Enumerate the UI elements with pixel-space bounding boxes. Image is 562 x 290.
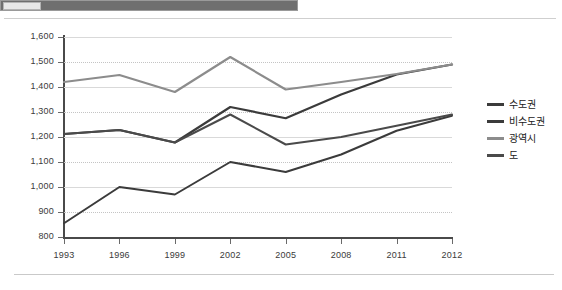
legend-label: 광역시 xyxy=(509,134,536,144)
x-axis-label: 2002 xyxy=(208,250,252,260)
y-axis-label: 1,600 xyxy=(6,31,54,41)
x-axis-label: 2008 xyxy=(319,250,363,260)
y-axis-label: 900 xyxy=(6,206,54,216)
legend-label: 도 xyxy=(509,151,518,161)
x-axis-tick xyxy=(230,239,231,244)
y-axis-label: 1,500 xyxy=(6,56,54,66)
legend-item: 비수도권 xyxy=(487,113,559,130)
x-axis-label: 1996 xyxy=(97,250,141,260)
y-axis-label: 1,000 xyxy=(6,181,54,191)
y-axis-label: 1,300 xyxy=(6,106,54,116)
x-axis-label: 2011 xyxy=(375,250,419,260)
footer-divider xyxy=(14,274,554,275)
x-axis-tick xyxy=(341,239,342,244)
chart-page: 1,6001,5001,4001,3001,2001,1001,00090080… xyxy=(0,0,562,290)
header-chip xyxy=(3,2,41,10)
series-line xyxy=(64,116,452,224)
legend-item: 광역시 xyxy=(487,130,559,147)
x-axis-line xyxy=(63,237,453,239)
x-axis-label: 1993 xyxy=(42,250,86,260)
series-line xyxy=(64,57,452,92)
legend-item: 도 xyxy=(487,147,559,164)
y-axis-label: 1,100 xyxy=(6,156,54,166)
legend-swatch-icon xyxy=(487,120,504,123)
legend-swatch-icon xyxy=(487,154,504,157)
x-axis-label: 1999 xyxy=(153,250,197,260)
chart-legend: 수도권비수도권광역시도 xyxy=(487,96,559,164)
header-bar xyxy=(0,0,298,11)
x-axis-tick xyxy=(452,239,453,244)
legend-swatch-icon xyxy=(487,137,504,140)
series-lines xyxy=(64,37,452,237)
y-axis-label: 1,400 xyxy=(6,81,54,91)
x-axis-label: 2012 xyxy=(430,250,474,260)
legend-item: 수도권 xyxy=(487,96,559,113)
y-axis-label: 800 xyxy=(6,231,54,241)
plot-area xyxy=(64,37,452,237)
x-axis-tick xyxy=(175,239,176,244)
legend-label: 비수도권 xyxy=(509,117,545,127)
x-axis-label: 2005 xyxy=(264,250,308,260)
header-divider xyxy=(4,18,556,19)
legend-label: 수도권 xyxy=(509,100,536,110)
y-axis-label: 1,200 xyxy=(6,131,54,141)
x-axis-tick xyxy=(286,239,287,244)
x-axis-tick xyxy=(119,239,120,244)
legend-swatch-icon xyxy=(487,103,504,106)
x-axis-tick xyxy=(397,239,398,244)
x-axis-tick xyxy=(64,239,65,244)
